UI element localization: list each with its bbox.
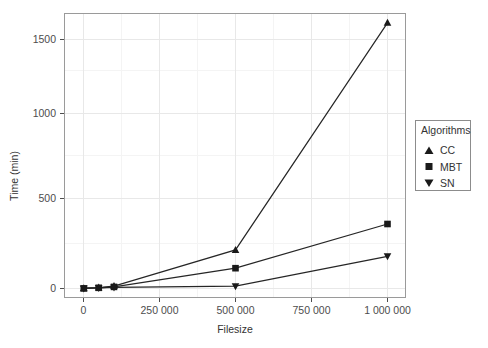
- x-tick-label-750000: 750 000: [293, 304, 331, 316]
- x-axis-title: Filesize: [217, 323, 253, 335]
- y-tick-label-1500: 1500: [33, 33, 57, 45]
- legend-label-sn: SN: [440, 177, 455, 189]
- legend-label-cc: CC: [440, 144, 456, 156]
- y-tick-label-500: 500: [38, 192, 56, 204]
- legend-label-mbt: MBT: [440, 161, 463, 173]
- square-icon: [426, 163, 433, 170]
- legend: Algorithms CC MBT SN: [416, 121, 471, 191]
- x-tick-label-1000000: 1 000 000: [364, 304, 411, 316]
- chart-figure: 0 500 1000 1500 0 250 000 500 000 750 00…: [0, 0, 488, 348]
- legend-title: Algorithms: [421, 124, 471, 136]
- y-tick-label-1000: 1000: [33, 107, 57, 119]
- chart-svg: 0 500 1000 1500 0 250 000 500 000 750 00…: [0, 0, 488, 348]
- y-tick-label-0: 0: [50, 282, 56, 294]
- y-axis-title: Time (min): [8, 151, 20, 201]
- x-tick-label-500000: 500 000: [217, 304, 255, 316]
- x-tick-label-0: 0: [81, 304, 87, 316]
- x-tick-label-250000: 250 000: [141, 304, 179, 316]
